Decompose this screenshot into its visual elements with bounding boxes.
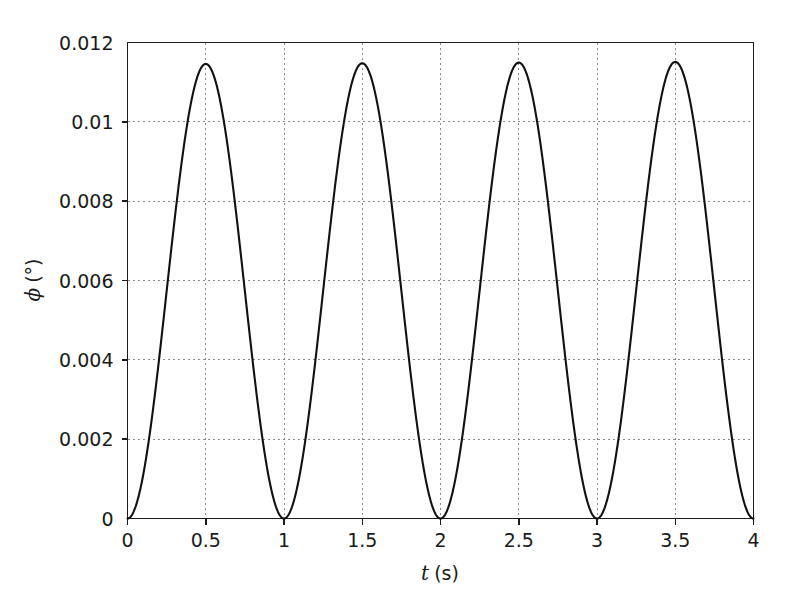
gridlines-group: [128, 43, 754, 519]
y-axis-symbol: ϕ: [21, 287, 45, 301]
x-tick-label: 1.5: [347, 529, 377, 551]
x-axis-symbol: t: [421, 561, 430, 585]
chart-canvas: 00.511.522.533.54 00.0020.0040.0060.0080…: [0, 0, 791, 595]
y-tick-label: 0: [101, 508, 113, 530]
x-tick-label: 0: [121, 529, 133, 551]
y-tick-label: 0.012: [59, 32, 113, 54]
x-tick-label: 2: [434, 529, 446, 551]
y-tick-label: 0.002: [59, 428, 113, 450]
x-axis-title: t(s): [421, 561, 459, 585]
y-tick-label: 0.01: [71, 111, 113, 133]
x-tick-labels-group: 00.511.522.533.54: [121, 529, 759, 551]
y-tick-label: 0.004: [59, 349, 113, 371]
y-tick-label: 0.008: [59, 190, 113, 212]
x-tick-label: 3.5: [660, 529, 690, 551]
y-axis-unit: (°): [22, 259, 44, 283]
x-tick-label: 1: [278, 529, 290, 551]
y-axis-title: ϕ(°): [21, 259, 45, 302]
x-tick-label: 4: [747, 529, 759, 551]
x-axis-unit: (s): [434, 562, 459, 584]
y-tick-labels-group: 00.0020.0040.0060.0080.010.012: [59, 32, 113, 530]
x-tick-label: 2.5: [504, 529, 534, 551]
x-tick-label: 3: [591, 529, 603, 551]
data-series-line: [128, 62, 754, 519]
x-tick-label: 0.5: [191, 529, 221, 551]
figure-container: 00.511.522.533.54 00.0020.0040.0060.0080…: [0, 0, 791, 595]
tickmarks-group: [122, 122, 754, 525]
y-tick-label: 0.006: [59, 270, 113, 292]
